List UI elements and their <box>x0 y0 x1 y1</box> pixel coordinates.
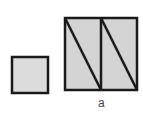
diagram-canvas: a <box>0 0 143 118</box>
large-square-group <box>65 18 137 90</box>
small-square <box>12 57 48 93</box>
figure-label: a <box>98 96 105 110</box>
